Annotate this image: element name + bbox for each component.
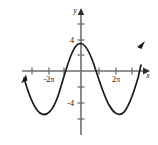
trig-graph-figure: -2π 2π 4 -4 x y: [0, 0, 158, 145]
x-tick-label-minus-2pi: -2π: [44, 75, 55, 84]
x-axis-label: x: [145, 71, 150, 80]
x-tick-label-2pi: 2π: [112, 75, 120, 84]
cosine-curve: [24, 43, 141, 114]
curve-right-arrow-icon: [137, 41, 145, 49]
y-axis-label: y: [72, 6, 77, 15]
y-tick-label-minus-4: -4: [67, 99, 74, 108]
y-tick-label-4: 4: [70, 36, 74, 45]
curve-left-arrow-icon: [21, 75, 28, 84]
graph-canvas: -2π 2π 4 -4 x y: [0, 0, 158, 145]
y-axis-arrow-icon: [78, 8, 84, 15]
